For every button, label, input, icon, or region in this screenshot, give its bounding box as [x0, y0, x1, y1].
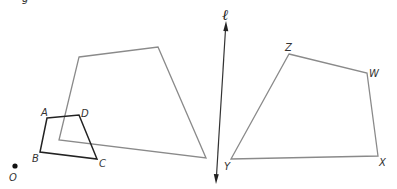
dilation-image-quadrilateral — [59, 47, 206, 158]
label-x: X — [378, 157, 387, 168]
preimage-quadrilateral-abcd — [40, 115, 97, 159]
reflection-line-l — [214, 21, 229, 184]
label-b: B — [32, 153, 39, 164]
label-c: C — [99, 158, 106, 169]
label-l: ℓ — [222, 6, 228, 24]
label-z: Z — [284, 42, 293, 53]
label-y: Y — [224, 161, 231, 172]
label-o: O — [9, 172, 17, 183]
center-point-o — [12, 163, 17, 168]
label-d: D — [81, 108, 89, 119]
label-a: A — [40, 107, 48, 118]
label-w: W — [369, 68, 380, 79]
transformation-diagram: g A D B C O ℓ Z W X Y — [0, 0, 397, 189]
reflection-image-quadrilateral-wxyz — [231, 54, 378, 159]
arrow-down-icon — [214, 174, 219, 184]
title-fragment: g — [22, 0, 28, 4]
